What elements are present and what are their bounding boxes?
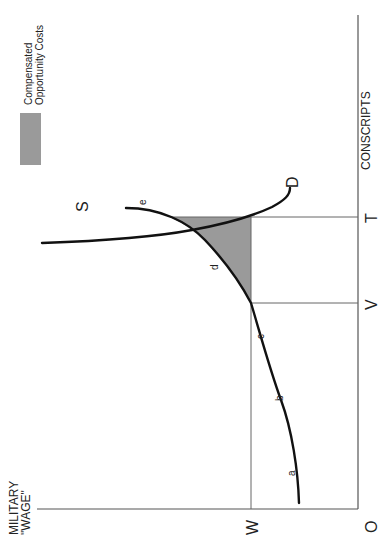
- legend-label-line1: Compensated: [23, 43, 34, 105]
- tick-label-v: V: [363, 299, 380, 310]
- point-label-d: d: [209, 264, 220, 270]
- origin-label: O: [363, 521, 380, 533]
- point-label-c: c: [255, 334, 266, 339]
- tick-label-w: W: [244, 519, 261, 535]
- curve-label-s: S: [74, 201, 91, 212]
- x-axis-label: CONSCRIPTS: [359, 91, 373, 170]
- legend-label-line2: Opportunity Costs: [34, 25, 45, 105]
- legend: Compensated Opportunity Costs: [20, 25, 45, 165]
- y-axis-label-line2: "WAGE": [19, 490, 33, 535]
- legend-swatch: [20, 113, 41, 165]
- curve-label-d: D: [284, 176, 301, 188]
- point-label-b: b: [274, 395, 285, 401]
- conscription-cost-diagram: Compensated Opportunity Costs MILITARY "…: [0, 0, 392, 547]
- point-label-e: e: [137, 199, 148, 205]
- tick-label-t: T: [363, 213, 380, 223]
- compensated-opportunity-cost-area: [170, 217, 251, 303]
- point-label-a: a: [286, 470, 297, 476]
- supply-curve-s: [126, 208, 299, 503]
